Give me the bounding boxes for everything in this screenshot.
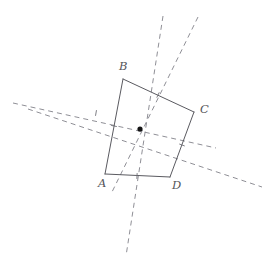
center-point-marker	[137, 126, 142, 131]
vertex-label-a: A	[97, 176, 106, 190]
dashed-axis-shallow	[28, 109, 262, 187]
dashed-axis-diagonal-up-right	[112, 17, 198, 192]
polygon-group	[105, 79, 194, 177]
vertex-label-b: B	[118, 59, 127, 73]
vertex-label-c: C	[200, 102, 209, 116]
side-CD	[170, 112, 194, 177]
center-point-group	[137, 126, 142, 131]
tick-left-cross	[96, 111, 97, 116]
side-BC	[123, 79, 194, 112]
geometry-figure: ABCD	[0, 0, 274, 270]
tick-AB	[112, 126, 117, 127]
dashed-lines-group	[13, 16, 262, 256]
vertex-label-d: D	[171, 178, 181, 192]
figure-canvas: ABCD	[0, 0, 274, 270]
dashed-axis-vertical	[126, 16, 163, 256]
